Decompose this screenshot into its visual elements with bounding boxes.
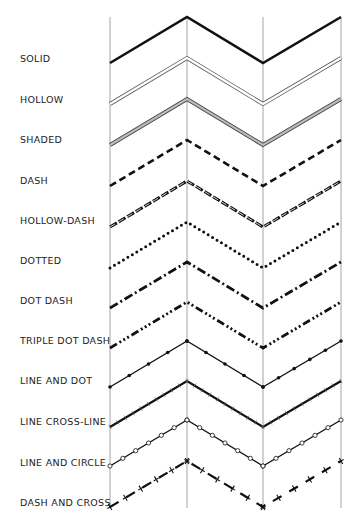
style-label-hollow: HOLLOW	[20, 94, 64, 105]
line-sample-shaded	[110, 99, 341, 145]
line-sample-dot-dash	[110, 262, 341, 308]
line-sample-line-dot	[108, 339, 343, 389]
line-sample-line-circle	[108, 418, 343, 468]
style-label-triple-dot-dash: TRIPLE DOT DASH	[20, 335, 110, 346]
line-sample-solid	[110, 17, 341, 63]
style-label-solid: SOLID	[20, 53, 50, 64]
line-sample-triple-dot-dash	[110, 302, 341, 348]
style-label-dot-dash: DOT DASH	[20, 295, 73, 306]
line-sample-hollow	[110, 58, 341, 104]
style-label-line-cross: LINE CROSS-LINE	[20, 416, 106, 427]
line-sample-dash	[110, 140, 341, 186]
style-label-line-dot: LINE AND DOT	[20, 375, 92, 386]
style-label-dash: DASH	[20, 175, 48, 186]
line-sample-line-cross	[109, 379, 343, 429]
style-label-dotted: DOTTED	[20, 255, 61, 266]
style-label-line-circle: LINE AND CIRCLE	[20, 457, 106, 468]
style-label-hollow-dash: HOLLOW-DASH	[20, 215, 95, 226]
style-label-shaded: SHADED	[20, 134, 62, 145]
style-label-dash-cross: DASH AND CROSS	[20, 497, 111, 508]
line-sample-hollow-dash	[110, 181, 341, 227]
line-sample-dash-cross	[107, 458, 343, 510]
line-sample-dotted	[110, 222, 341, 268]
